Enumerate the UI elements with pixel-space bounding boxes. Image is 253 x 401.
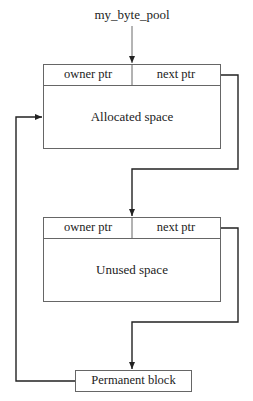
diagram-canvas xyxy=(0,0,253,401)
block2-owner-ptr: owner ptr xyxy=(44,220,132,235)
block1-next-ptr: next ptr xyxy=(132,67,220,82)
block2-body: Unused space xyxy=(44,262,220,278)
block1-body: Allocated space xyxy=(44,109,220,125)
block1-owner-ptr: owner ptr xyxy=(44,67,132,82)
pool-label: my_byte_pool xyxy=(82,7,182,23)
permanent-block-label: Permanent block xyxy=(76,373,191,388)
block2-next-ptr: next ptr xyxy=(132,220,220,235)
